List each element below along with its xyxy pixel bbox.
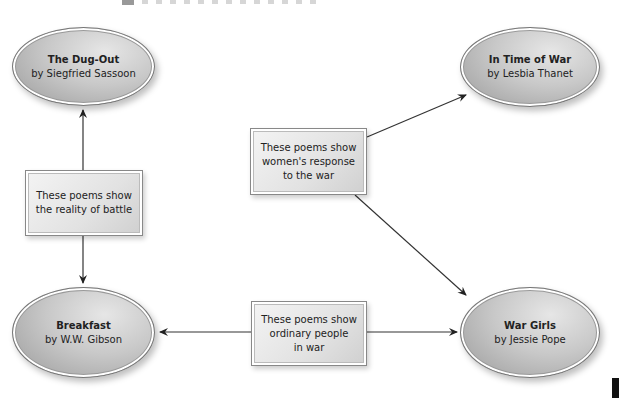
arrow-women-to-intime <box>367 95 466 137</box>
node-in-time-of-war: In Time of War by Lesbia Thanet <box>460 27 600 107</box>
theme-box-women: These poems show women's response to the… <box>250 128 367 195</box>
node-author: by Jessie Pope <box>494 333 565 347</box>
node-title: Breakfast <box>56 319 111 333</box>
theme-line: the reality of battle <box>36 203 132 217</box>
node-title: War Girls <box>504 319 556 333</box>
node-author: by Lesbia Thanet <box>487 67 573 81</box>
node-title: The Dug-Out <box>48 53 119 67</box>
theme-box-battle: These poems show the reality of battle <box>25 170 143 236</box>
theme-line: to the war <box>261 169 357 183</box>
node-title: In Time of War <box>489 53 571 67</box>
theme-line: in war <box>261 341 357 355</box>
node-author: by W.W. Gibson <box>45 333 122 347</box>
theme-line: women's response <box>261 155 357 169</box>
node-war-girls: War Girls by Jessie Pope <box>460 287 600 378</box>
arrow-women-to-wargirls <box>355 195 466 295</box>
node-breakfast: Breakfast by W.W. Gibson <box>12 287 155 378</box>
theme-line: These poems show <box>36 189 132 203</box>
theme-line: These poems show <box>261 141 357 155</box>
theme-line: These poems show <box>261 313 357 327</box>
page-edge-marker <box>612 378 619 398</box>
node-author: by Siegfried Sassoon <box>31 67 136 81</box>
theme-line: ordinary people <box>261 327 357 341</box>
node-dug-out: The Dug-Out by Siegfried Sassoon <box>12 27 155 106</box>
theme-box-ordinary: These poems show ordinary people in war <box>251 301 367 366</box>
